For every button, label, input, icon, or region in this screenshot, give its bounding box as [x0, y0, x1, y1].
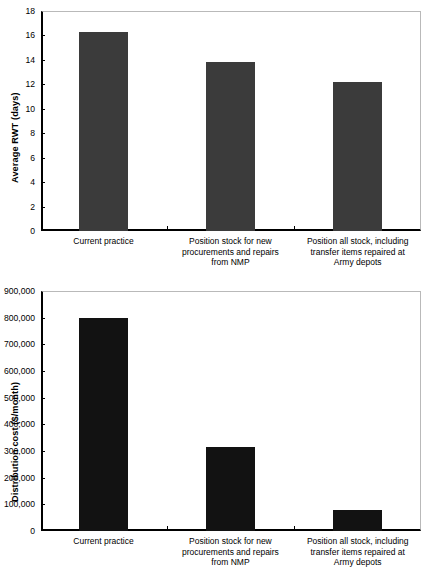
y-tick-mark [41, 424, 45, 425]
bar-1 [79, 32, 128, 231]
x-category-label-line: Position all stock, including [292, 236, 424, 247]
x-tick-mark [294, 526, 295, 531]
y-tick-mark [41, 318, 45, 319]
y-tick-label: 200,000 [4, 473, 35, 483]
x-category-label-2: Position stock for newprocurements and r… [164, 536, 296, 568]
y-tick-mark [41, 504, 45, 505]
y-tick-mark [41, 371, 45, 372]
y-tick-label: 0 [30, 226, 35, 236]
x-category-label-line: from NMP [164, 257, 296, 268]
x-category-label-line: procurements and repairs [164, 247, 296, 258]
y-tick-label: 10 [25, 104, 35, 114]
x-category-label-1: Current practice [38, 236, 170, 247]
x-category-label-line: Current practice [38, 536, 170, 547]
bar-1 [79, 318, 128, 531]
y-tick-label: 100,000 [4, 499, 35, 509]
x-category-label-line: transfer items repaired at [292, 547, 424, 558]
x-tick-mark [167, 526, 168, 531]
y-tick-mark [41, 133, 45, 134]
y-tick-label: 18 [25, 6, 35, 16]
y-tick-label: 6 [30, 153, 35, 163]
x-category-label-line: Army depots [292, 257, 424, 268]
y-tick-mark [41, 109, 45, 110]
y-tick-mark [41, 84, 45, 85]
x-category-label-line: Position all stock, including [292, 536, 424, 547]
x-category-label-3: Position all stock, includingtransfer it… [292, 236, 424, 268]
bar-2 [206, 447, 255, 531]
y-tick-mark [41, 398, 45, 399]
y-tick-mark [41, 158, 45, 159]
x-category-label-line: Army depots [292, 557, 424, 568]
y-tick-label: 500,000 [4, 393, 35, 403]
y-tick-label: 900,000 [4, 286, 35, 296]
y-tick-label: 8 [30, 128, 35, 138]
figure-page: Average RWT (days) 181614121086420 Curre… [0, 0, 427, 577]
bar-2 [206, 62, 255, 231]
y-tick-mark [41, 35, 45, 36]
bar-3 [333, 82, 382, 231]
y-tick-label: 2 [30, 202, 35, 212]
y-tick-label: 400,000 [4, 419, 35, 429]
y-tick-mark [41, 182, 45, 183]
y-tick-label: 0 [30, 526, 35, 536]
bar-3 [333, 510, 382, 531]
chart-distribution-cost: Distribution cost ($/month) 900,000800,0… [0, 280, 427, 577]
y-tick-label: 14 [25, 55, 35, 65]
x-category-label-line: Position stock for new [164, 236, 296, 247]
x-category-label-line: Position stock for new [164, 536, 296, 547]
y-tick-label: 16 [25, 30, 35, 40]
y-tick-mark [41, 451, 45, 452]
chart-average-rwt: Average RWT (days) 181614121086420 Curre… [0, 0, 427, 280]
x-tick-mark [294, 226, 295, 231]
y-tick-mark [41, 478, 45, 479]
y-tick-label: 600,000 [4, 366, 35, 376]
x-tick-mark [167, 226, 168, 231]
plot-area-top: 181614121086420 [41, 11, 421, 231]
x-category-label-3: Position all stock, includingtransfer it… [292, 536, 424, 568]
x-category-label-line: Current practice [38, 236, 170, 247]
y-axis-title-top: Average RWT (days) [10, 92, 20, 183]
y-tick-label: 4 [30, 177, 35, 187]
x-category-label-line: from NMP [164, 557, 296, 568]
y-tick-mark [41, 344, 45, 345]
x-category-label-line: transfer items repaired at [292, 247, 424, 258]
plot-area-bottom: 900,000800,000700,000600,000500,000400,0… [41, 291, 421, 531]
y-tick-label: 300,000 [4, 446, 35, 456]
y-tick-label: 700,000 [4, 339, 35, 349]
y-tick-label: 12 [25, 79, 35, 89]
y-tick-mark [41, 60, 45, 61]
y-tick-mark [41, 207, 45, 208]
y-tick-label: 800,000 [4, 313, 35, 323]
x-category-label-line: procurements and repairs [164, 547, 296, 558]
x-category-label-1: Current practice [38, 536, 170, 547]
x-category-label-2: Position stock for newprocurements and r… [164, 236, 296, 268]
